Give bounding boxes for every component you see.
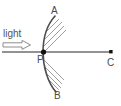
mirror-top-label-a: A	[51, 6, 58, 16]
light-direction-arrow	[3, 40, 31, 49]
light-label: light	[3, 29, 21, 39]
center-of-curvature-label-c: C	[107, 58, 114, 68]
mirror-bottom-label-b: B	[54, 91, 61, 101]
optics-diagram: light A B C P	[0, 0, 121, 106]
center-of-curvature-point	[109, 50, 112, 53]
pole-label-p: P	[37, 55, 44, 65]
mirror-hatching	[42, 14, 66, 96]
